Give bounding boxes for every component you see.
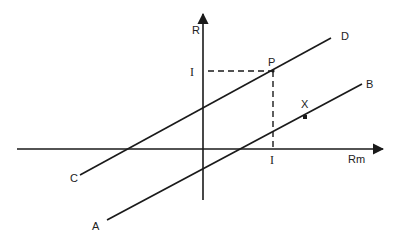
y-axis-label: R [192,24,200,36]
line-cd-start-label: C [70,172,78,184]
x-axis-label: Rm [348,153,365,165]
line-ab-start-label: A [92,220,100,232]
line-ab-end-label: B [366,78,373,90]
point-x-label: X [301,98,309,110]
x-tick-label: I [270,153,274,167]
point-p [271,69,274,72]
point-x [303,115,307,119]
y-tick-label: I [190,65,194,79]
line-cd-end-label: D [341,30,349,42]
point-p-label: P [268,56,275,68]
line-cd [80,38,331,175]
diagram-canvas: R Rm C D A B I I P X [0,0,396,244]
line-ab [107,84,362,220]
